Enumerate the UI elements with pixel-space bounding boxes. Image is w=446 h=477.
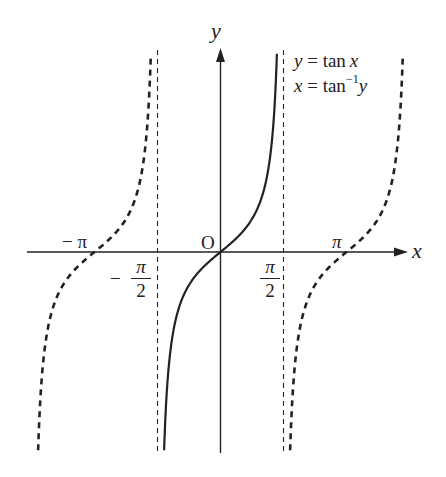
fraction-numerator: π [265,258,275,276]
y-axis-label: y [211,20,221,42]
tick-label-neg-pi: − π [62,232,87,251]
legend-eq: = tan [302,75,345,96]
tick-label-pi: π [332,232,342,251]
tick-label-neg-half-pi: π 2 [131,258,151,300]
legend-rhs: x [350,50,358,71]
y-axis-arrow-icon [216,48,225,62]
tick-label-neg-half-pi-sign: − [110,268,121,290]
fraction-numerator: π [136,258,146,276]
fraction-denominator: 2 [265,282,275,300]
legend-rhs: y [359,75,367,96]
fraction-denominator: 2 [136,282,146,300]
legend-line-tan: y = tan x [294,50,358,72]
x-axis-arrow-icon [394,248,408,257]
legend-eq: = tan [302,50,345,71]
fraction-bar [260,278,280,279]
origin-label: O [201,233,215,252]
legend-sup: −1 [346,72,359,86]
x-axis-label: x [412,240,422,262]
tick-label-half-pi: π 2 [260,258,280,300]
fraction-bar [131,278,151,279]
legend-line-arctan: x = tan−1y [294,74,367,97]
